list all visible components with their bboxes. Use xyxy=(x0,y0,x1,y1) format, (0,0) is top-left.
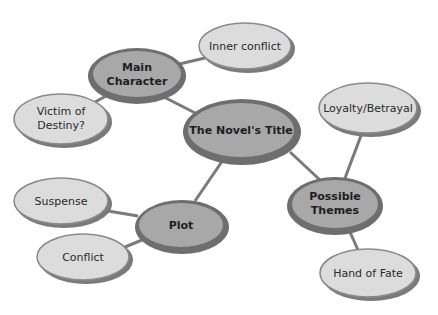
main-node-label: Plot xyxy=(169,219,194,232)
sub-node-label: Loyalty/Betrayal xyxy=(323,102,413,115)
center-node-title[interactable]: The Novel's Title xyxy=(183,99,301,165)
sub-node-inner-conflict[interactable]: Inner conflict xyxy=(199,23,295,73)
sub-node-label: Victim of xyxy=(37,105,87,118)
sub-node-label: Hand of Fate xyxy=(333,267,403,280)
main-node-label: Themes xyxy=(311,204,360,217)
connector-plot-conflict xyxy=(125,240,142,247)
connector-title-themes xyxy=(290,152,320,180)
connector-plot-suspense xyxy=(108,211,138,216)
main-node-label: Possible xyxy=(309,190,361,203)
center-node-label: The Novel's Title xyxy=(189,124,292,137)
sub-node-label: Inner conflict xyxy=(209,40,282,53)
sub-node-label: Destiny? xyxy=(37,119,85,132)
connector-themes-loyalty xyxy=(345,133,362,178)
sub-node-loyalty-betrayal[interactable]: Loyalty/Betrayal xyxy=(319,83,421,137)
connector-themes-hand-of-fate xyxy=(350,232,358,250)
connector-title-plot xyxy=(195,160,223,201)
sub-node-label: Conflict xyxy=(62,251,104,264)
concept-map: Inner conflict Victim of Destiny? Suspen… xyxy=(0,0,438,315)
sub-node-conflict[interactable]: Conflict xyxy=(37,234,133,284)
main-node-plot[interactable]: Plot xyxy=(135,200,229,254)
main-node-main-character[interactable]: Main Character xyxy=(88,48,186,104)
sub-node-label: Suspense xyxy=(35,195,88,208)
main-node-possible-themes[interactable]: Possible Themes xyxy=(287,177,383,235)
main-node-label: Character xyxy=(107,75,168,88)
main-node-label: Main xyxy=(122,61,152,74)
sub-node-suspense[interactable]: Suspense xyxy=(14,178,112,228)
sub-node-hand-of-fate[interactable]: Hand of Fate xyxy=(320,249,420,301)
